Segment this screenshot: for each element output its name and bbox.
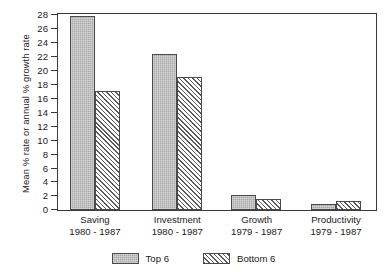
y-axis-tick: 26	[51, 28, 58, 29]
bar-investment-bottom-6	[177, 77, 202, 210]
y-axis-tick-label: 10	[37, 136, 48, 146]
bar-saving-bottom-6	[95, 91, 120, 210]
bar-chart-figure: Mean % rate or annual % growth rate 0246…	[0, 0, 387, 279]
plot-area: 0246810121416182022242628	[57, 13, 377, 211]
y-axis-tick: 2	[51, 195, 58, 196]
legend-item-top-6[interactable]: Top 6	[112, 253, 169, 264]
bar-productivity-top-6	[311, 204, 336, 210]
y-axis-tick-label: 6	[43, 164, 48, 174]
bar-saving-top-6	[70, 16, 95, 210]
y-axis-tick: 6	[51, 168, 58, 169]
bar-growth-top-6	[231, 195, 256, 210]
y-axis-tick: 20	[51, 70, 58, 71]
legend-label: Top 6	[146, 253, 169, 264]
y-axis-tick-label: 26	[37, 24, 48, 34]
y-axis-tick: 24	[51, 42, 58, 43]
bar-investment-top-6	[152, 54, 177, 210]
y-axis-tick-label: 24	[37, 38, 48, 48]
plot-inner: 0246810121416182022242628	[58, 14, 376, 210]
y-axis-tick: 0	[51, 209, 58, 210]
y-axis-tick: 12	[51, 126, 58, 127]
y-axis-tick: 10	[51, 140, 58, 141]
y-axis-tick-label: 28	[37, 10, 48, 20]
y-axis-tick: 18	[51, 84, 58, 85]
y-axis-tick: 22	[51, 56, 58, 57]
y-axis-tick-label: 16	[37, 94, 48, 104]
solid-gray-swatch	[112, 253, 139, 264]
y-axis-title: Mean % rate or annual % growth rate	[20, 19, 31, 209]
x-axis-label-productivity: Productivity1979 - 1987	[286, 214, 386, 239]
diagonal-hatch-swatch	[203, 253, 230, 264]
y-axis-tick-label: 22	[37, 52, 48, 62]
chart-legend: Top 6Bottom 6	[0, 253, 387, 264]
y-axis-tick-label: 2	[43, 192, 48, 202]
y-axis-tick-label: 14	[37, 108, 48, 118]
legend-item-bottom-6[interactable]: Bottom 6	[203, 253, 275, 264]
x-axis-label-name: Productivity	[286, 214, 386, 226]
y-axis-tick: 14	[51, 112, 58, 113]
y-axis-tick: 28	[51, 14, 58, 15]
y-axis-tick-label: 18	[37, 80, 48, 90]
y-axis-tick-label: 4	[43, 178, 48, 188]
x-axis-label-period: 1979 - 1987	[286, 226, 386, 238]
bar-productivity-bottom-6	[336, 201, 361, 210]
y-axis-tick-label: 20	[37, 66, 48, 76]
legend-label: Bottom 6	[237, 253, 275, 264]
y-axis-tick-label: 12	[37, 122, 48, 132]
y-axis-tick: 4	[51, 181, 58, 182]
bar-growth-bottom-6	[256, 199, 281, 210]
y-axis-tick-label: 8	[43, 150, 48, 160]
y-axis-tick: 8	[51, 154, 58, 155]
y-axis-tick: 16	[51, 98, 58, 99]
